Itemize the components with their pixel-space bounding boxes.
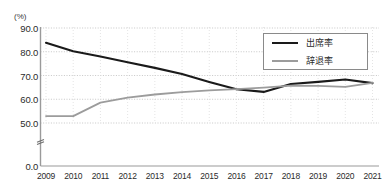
x-axis-tick-label: 2014	[167, 171, 197, 181]
x-axis-tick-label: 2013	[140, 171, 170, 181]
x-axis-tick-label: 2015	[194, 171, 224, 181]
x-axis-tick-label: 2018	[276, 171, 306, 181]
x-axis-tick-label: 2019	[303, 171, 333, 181]
legend-item-attendance: 出席率	[272, 36, 367, 49]
x-axis-tick-label: 2011	[85, 171, 115, 181]
plot-area	[0, 0, 383, 195]
x-axis-tick-label: 2016	[221, 171, 251, 181]
legend-line-swatch-decline	[272, 60, 298, 62]
x-axis-tick-label: 2010	[58, 171, 88, 181]
x-axis-tick-label: 2009	[31, 171, 61, 181]
x-axis-tick-label: 2020	[330, 171, 360, 181]
legend-item-decline: 辞退率	[272, 54, 367, 67]
x-axis-tick-label: 2021	[358, 171, 383, 181]
x-axis-tick-label: 2012	[113, 171, 143, 181]
legend-label-decline: 辞退率	[306, 54, 333, 67]
legend-line-swatch-attendance	[272, 42, 298, 44]
chart-legend: 出席率 辞退率	[263, 33, 368, 70]
line-chart: (%) 0.050.060.070.080.090.0 出席率 辞退率 2009…	[0, 0, 383, 195]
legend-label-attendance: 出席率	[306, 36, 333, 49]
x-axis-tick-label: 2017	[249, 171, 279, 181]
